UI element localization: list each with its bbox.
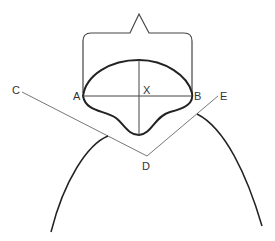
label-c: C bbox=[12, 84, 20, 96]
label-e: E bbox=[220, 90, 227, 102]
label-d: D bbox=[142, 160, 150, 172]
label-x: X bbox=[143, 84, 151, 96]
left-arc bbox=[51, 136, 108, 232]
diagram-canvas: A B C D E X bbox=[0, 0, 275, 241]
right-arc bbox=[197, 114, 262, 226]
bracket bbox=[83, 14, 192, 93]
label-b: B bbox=[194, 90, 201, 102]
line-c-d-e bbox=[22, 92, 218, 156]
label-a: A bbox=[73, 90, 81, 102]
main-shape bbox=[83, 60, 192, 135]
